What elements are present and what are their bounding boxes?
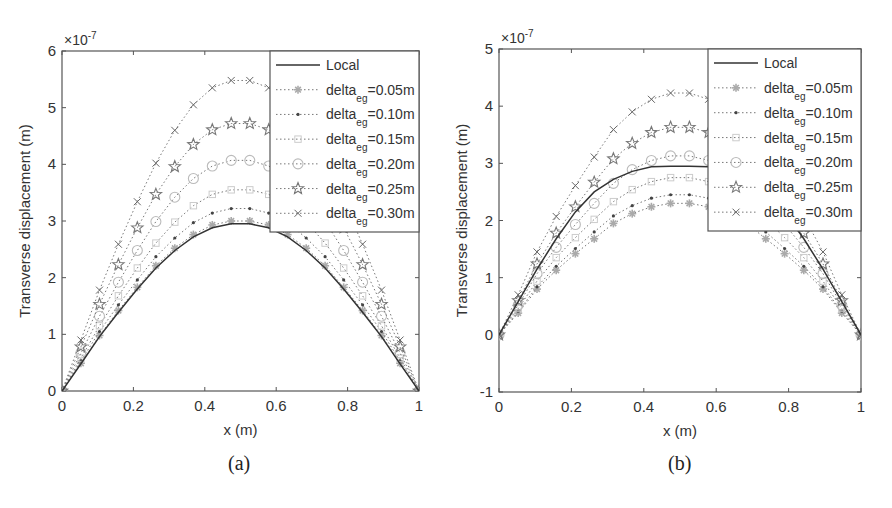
data-point [324,255,327,258]
y-tick-label: 4 [48,155,56,172]
data-point [609,219,617,227]
data-point [211,211,214,214]
y-tick-label: 1 [485,269,493,286]
caption-a: (a) [228,452,250,475]
data-point [802,265,805,268]
x-tick-label: 0.4 [633,398,654,415]
data-point [685,199,693,207]
y-tick-label: 2 [48,269,56,286]
legend-marker-icon [732,84,740,92]
y-axis-label: Transverse displacement (m) [453,124,470,318]
x-tick-label: 0.4 [194,397,215,414]
data-point [380,330,383,333]
data-point [230,207,233,210]
legend-marker-icon [296,113,299,116]
chart-panel-a: 00.20.40.60.810123456×10-7x (m)Transvers… [0,0,446,508]
y-tick-label: -1 [480,383,493,400]
caption-b: (b) [668,452,691,475]
data-point [574,247,577,250]
y-tick-label: 2 [485,212,493,229]
data-point [669,193,672,196]
y-tick-label: 4 [485,97,493,114]
y-tick-label: 5 [48,99,56,116]
data-point [173,236,176,239]
data-point [555,265,558,268]
data-point [305,236,308,239]
data-point [762,235,770,243]
legend-marker-icon [734,111,737,114]
legend: Localdeltaeg=0.05mdeltaeg=0.10mdeltaeg=0… [270,51,419,232]
y-tick-label: 0 [48,382,56,399]
x-axis-label: x (m) [663,422,697,439]
legend-marker-icon [294,86,302,94]
y-tick-label: 6 [48,42,56,59]
y-axis-label: Transverse displacement (m) [16,124,33,318]
data-point [612,214,615,217]
y-tick-label: 0 [485,326,493,343]
y-tick-label: 3 [48,212,56,229]
x-axis-label: x (m) [223,421,257,438]
x-tick-label: 1 [415,397,423,414]
x-tick-label: 0.2 [123,397,144,414]
data-point [590,235,598,243]
data-point [631,204,634,207]
x-tick-label: 0.6 [706,398,727,415]
x-tick-label: 0 [495,398,503,415]
x-tick-label: 0 [58,397,66,414]
x-tick-label: 1 [857,398,865,415]
x-tick-label: 0.8 [778,398,799,415]
data-point [628,210,636,218]
data-point [98,330,101,333]
x-tick-label: 0.2 [561,398,582,415]
y-tick-label: 1 [48,325,56,342]
data-point [667,199,675,207]
data-point [192,221,195,224]
data-point [136,278,139,281]
data-point [154,255,157,258]
data-point [248,207,251,210]
data-point [342,278,345,281]
data-point [783,247,786,250]
chart-panel-b: 00.20.40.60.81-1012345×10-7x (m)Transver… [446,0,892,508]
data-point [647,203,655,211]
data-point [650,197,653,200]
x-tick-label: 0.6 [266,397,287,414]
data-point [688,193,691,196]
data-point [535,285,538,288]
data-point [593,230,596,233]
y-exponent-label: ×10-7 [501,28,534,46]
data-point [571,250,579,258]
legend: Localdeltaeg=0.05mdeltaeg=0.10mdeltaeg=0… [708,49,861,231]
data-point [821,285,824,288]
data-point [361,303,364,306]
y-tick-label: 5 [485,40,493,57]
legend-label: Local [326,57,359,73]
legend-label: Local [764,55,797,71]
data-point [117,303,120,306]
y-tick-label: 3 [485,154,493,171]
y-exponent-label: ×10-7 [64,30,97,48]
x-tick-label: 0.8 [337,397,358,414]
